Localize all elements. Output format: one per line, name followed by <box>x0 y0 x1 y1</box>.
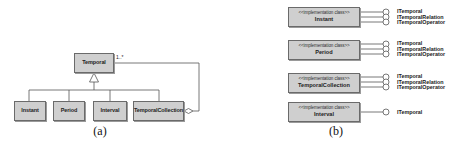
interface-label: ITemporalOperator <box>397 85 445 90</box>
diagram-b-implementation-classes: <<implementation class>> Instant ITempor… <box>232 0 464 148</box>
class-name: TemporalCollection <box>298 83 350 89</box>
class-name: Interval <box>314 112 334 118</box>
impl-class-instant: <<implementation class>> Instant <box>288 7 360 27</box>
impl-class-interval: <<implementation class>> Interval <box>288 102 360 122</box>
class-name: Period <box>61 108 78 114</box>
class-name: Instant <box>21 108 38 114</box>
interface-lollipop-icon <box>383 51 389 57</box>
class-instant: Instant <box>14 101 46 121</box>
class-name: Temporal <box>82 60 106 66</box>
caption-a: (a) <box>93 124 106 139</box>
multiplicity-label: 1..* <box>116 54 124 60</box>
impl-class-temporal-collection: <<implementation class>> TemporalCollect… <box>288 73 360 93</box>
class-period: Period <box>53 101 85 121</box>
class-name: Period <box>315 50 332 56</box>
interface-lollipop-icon <box>383 19 389 25</box>
interface-lollipop-icon <box>383 109 389 115</box>
class-interval: Interval <box>93 101 127 121</box>
impl-class-period: <<implementation class>> Period <box>288 40 360 60</box>
class-name: Instant <box>315 17 333 23</box>
aggregation-diamond-icon <box>184 109 193 114</box>
interface-label: ITemporalOperator <box>397 52 445 57</box>
diagram-a-class-hierarchy: Temporal 1..* Instant Period Interval Te… <box>0 0 232 148</box>
class-name: TemporalCollection <box>134 108 183 114</box>
interface-label: ITemporal <box>397 110 422 115</box>
class-temporal-collection: TemporalCollection <box>133 101 184 121</box>
class-temporal: Temporal <box>74 53 114 73</box>
diagram-a-connectors <box>0 0 232 148</box>
interface-label: ITemporalOperator <box>397 20 445 25</box>
caption-b: (b) <box>329 124 343 139</box>
class-name: Interval <box>101 108 120 114</box>
generalization-arrow-icon <box>90 73 99 82</box>
interface-lollipop-icon <box>383 84 389 90</box>
